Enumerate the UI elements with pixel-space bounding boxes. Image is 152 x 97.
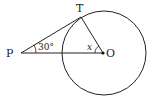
label-o: O <box>106 47 115 60</box>
angle-arc-p <box>34 45 36 53</box>
angle-label-o: x <box>87 42 92 52</box>
angle-label-p: 30° <box>38 42 54 52</box>
label-p: P <box>6 47 14 60</box>
label-t: T <box>76 2 84 15</box>
center-point-o <box>101 51 104 54</box>
geometry-diagram: P T O 30° x <box>0 0 152 97</box>
angle-arc-o <box>95 46 99 53</box>
